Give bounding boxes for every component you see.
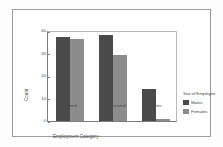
y-tick-label: 10 (41, 96, 46, 101)
bar-chart-figure: 40 30 20 10 0 Salaried Professional (0, 0, 223, 147)
bar-other-females (156, 119, 170, 121)
tick-mark-icon (48, 122, 50, 123)
y-axis-title: Count (24, 89, 30, 101)
legend-title: Sex of Employee (183, 91, 223, 97)
x-axis-label-salaried: Salaried (47, 103, 91, 109)
y-tick-label: 40 (41, 28, 46, 33)
y-tick-label: 30 (41, 51, 46, 56)
legend-item-label: Males (191, 100, 202, 105)
legend-swatch-icon (183, 100, 189, 105)
x-axis-label-other: Other (137, 103, 175, 109)
bar-professional-females (113, 55, 127, 121)
legend-item-females[interactable]: Females (183, 109, 223, 114)
legend-swatch-icon (183, 109, 189, 114)
legend-item-males[interactable]: Males (183, 100, 223, 105)
legend: Sex of Employee Males Females (183, 91, 223, 118)
x-axis-title: Employment Category (53, 134, 98, 140)
x-axis-label-professional: Professional (90, 103, 138, 109)
y-tick-label: 20 (41, 73, 46, 78)
legend-item-label: Females (191, 109, 208, 114)
chart-outer-frame: 40 30 20 10 0 Salaried Professional (12, 9, 211, 137)
y-tick-label: 0 (44, 118, 46, 123)
